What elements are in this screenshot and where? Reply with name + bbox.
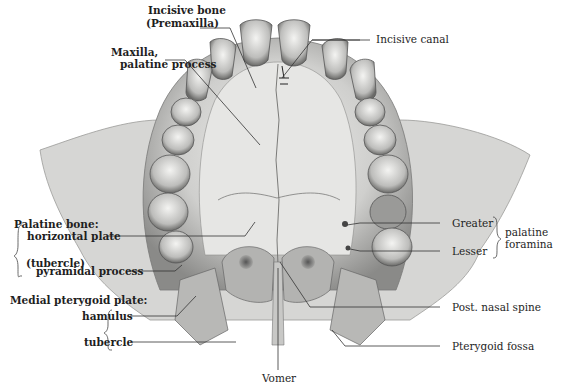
label-palatine-bone: Palatine bone: [14, 218, 99, 230]
label-hamulus: hamulus [82, 310, 133, 322]
label-lesser: Lesser [452, 245, 487, 257]
label-pterygoid-fossa: Pterygoid fossa [452, 340, 534, 352]
label-incisive-bone: Incisive bone [148, 4, 226, 16]
label-pterygoid-tubercle: tubercle [84, 336, 133, 348]
palate-diagram: Incisive bone (Premaxilla) Maxilla, pala… [0, 0, 562, 387]
label-medial-pterygoid-plate: Medial pterygoid plate: [10, 294, 147, 306]
label-foramina: foramina [505, 238, 553, 250]
label-premaxilla: (Premaxilla) [146, 17, 219, 29]
lesser-palatine-foramen [346, 246, 351, 251]
label-incisive-canal: Incisive canal [376, 33, 449, 45]
label-greater: Greater [452, 217, 493, 229]
label-pyramidal-process: pyramidal process [36, 265, 143, 277]
label-vomer: Vomer [262, 372, 296, 384]
label-palatine-process: palatine process [120, 58, 217, 70]
label-horizontal-plate: horizontal plate [27, 230, 121, 242]
greater-palatine-foramen [342, 221, 348, 227]
palate-illustration [0, 0, 562, 387]
label-post-nasal-spine: Post. nasal spine [452, 301, 541, 313]
label-maxilla: Maxilla, [111, 46, 158, 58]
label-palatine: palatine [505, 226, 548, 238]
